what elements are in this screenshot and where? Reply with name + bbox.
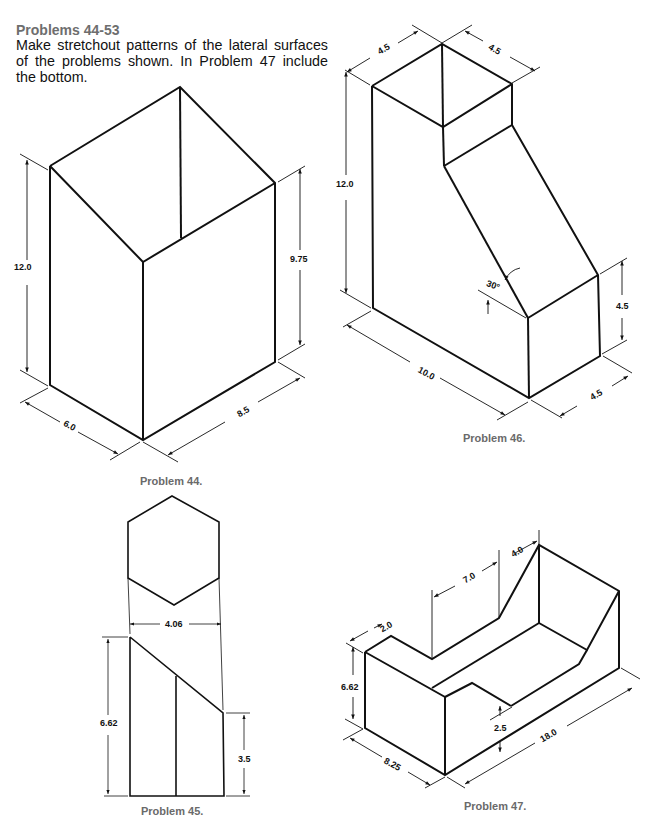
dim-6-62: 6.62 xyxy=(100,718,118,728)
dim-2-5: 2.5 xyxy=(494,723,507,733)
dim-4-5-top-left: 4.5 xyxy=(376,42,392,57)
dim-4-0: 4.0 xyxy=(509,544,525,559)
caption-problem-46: Problem 46. xyxy=(463,432,525,444)
dim-10-0: 10.0 xyxy=(416,365,436,382)
problem-44-drawing: 12.0 9.75 6.0 8.5 xyxy=(14,87,308,462)
dim-3-5: 3.5 xyxy=(238,754,251,764)
dim-8-5: 8.5 xyxy=(235,404,251,419)
dim-18-0: 18.0 xyxy=(538,727,558,744)
dim-4-5-height: 4.5 xyxy=(616,301,629,311)
dim-12-0: 12.0 xyxy=(14,262,32,272)
dim-8-25: 8.25 xyxy=(382,756,402,773)
dim-9-75: 9.75 xyxy=(290,254,308,264)
dim-4-06: 4.06 xyxy=(165,619,183,629)
dim-7-0: 7.0 xyxy=(461,570,477,585)
dim-2-0: 2.0 xyxy=(378,619,394,634)
caption-problem-47: Problem 47. xyxy=(464,800,526,812)
problem-45-drawing: 4.06 6.62 3.5 xyxy=(100,496,251,796)
caption-problem-45: Problem 45. xyxy=(141,805,203,817)
caption-problem-44: Problem 44. xyxy=(140,475,202,487)
dim-4-5-top-right: 4.5 xyxy=(487,42,503,57)
dim-30-deg: 30° xyxy=(485,278,502,292)
problem-47-drawing: 2.0 7.0 4.0 6.62 2.5 18.0 8.25 xyxy=(341,530,640,788)
dim-6-62-p47: 6.62 xyxy=(341,682,359,692)
dim-6-0: 6.0 xyxy=(62,418,78,433)
drawings-canvas: 12.0 9.75 6.0 8.5 4.06 6.62 3.5 xyxy=(0,0,659,829)
dim-12-0-p46: 12.0 xyxy=(336,179,354,189)
dim-4-5-depth: 4.5 xyxy=(588,387,604,402)
problem-46-drawing: 4.5 4.5 12.0 30° 4.5 10.0 4.5 xyxy=(336,25,632,420)
